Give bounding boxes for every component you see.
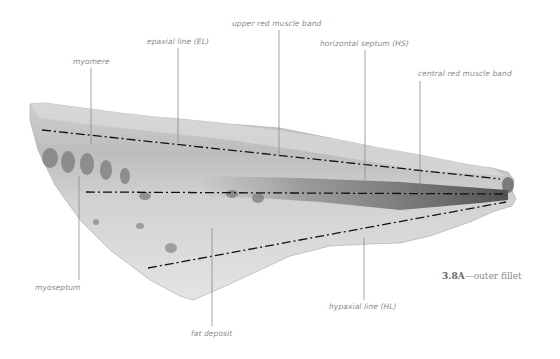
fillet-illustration	[0, 0, 560, 359]
label-hypaxial-line: hypaxial line (HL)	[329, 302, 397, 311]
label-myoseptum: myoseptum	[35, 283, 81, 292]
label-fat-deposit: fat deposit	[191, 329, 232, 338]
label-myomere: myomere	[73, 57, 110, 66]
figure-number: 3.8A	[442, 271, 465, 281]
fillet-diagram: myomere epaxial line (EL) upper red musc…	[0, 0, 560, 359]
caption-separator: —	[465, 271, 474, 281]
caption-text: outer fillet	[474, 271, 522, 281]
figure-caption: 3.8A—outer fillet	[442, 271, 522, 281]
label-upper-red-muscle-band: upper red muscle band	[232, 19, 321, 28]
label-horizontal-septum: horizontal septum (HS)	[320, 39, 409, 48]
label-central-red-muscle-band: central red muscle band	[418, 69, 512, 78]
label-epaxial-line: epaxial line (EL)	[147, 37, 209, 46]
